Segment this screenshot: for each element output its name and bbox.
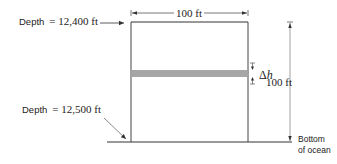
depth-bottom-label: Depth = 12,500 ft xyxy=(22,99,101,116)
slab-delta-h xyxy=(132,70,248,77)
delta-h-marker xyxy=(250,63,255,84)
water-column-box xyxy=(131,22,248,142)
delta-h-label: Δh xyxy=(259,68,273,82)
ocean-column-diagram: 100 ft 100 ft Δh Depth = 12,400 ft Depth… xyxy=(0,0,337,164)
depth-top-label: Depth = 12,400 ft xyxy=(19,11,98,28)
width-dimension-label: 100 ft xyxy=(176,7,202,19)
depth-bottom-arrow xyxy=(104,118,126,139)
bottom-of-ocean-label: Bottom of ocean xyxy=(298,134,331,155)
